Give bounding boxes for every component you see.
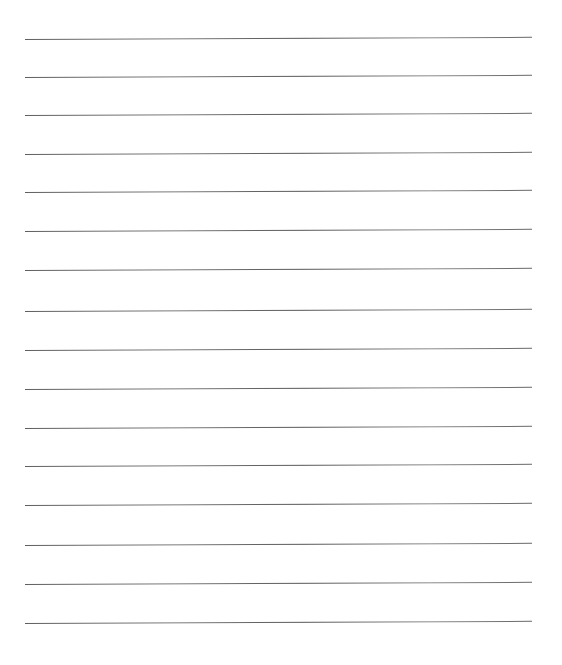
ruled-line [25,464,532,467]
ruled-line [25,543,532,546]
ruled-line [25,426,532,429]
ruled-line [25,348,532,351]
ruled-line [25,75,532,78]
ruled-line [25,37,532,40]
ruled-line [25,268,532,271]
ruled-line [25,229,532,232]
ruled-line [25,152,532,155]
ruled-line [25,387,532,390]
ruled-line [25,309,532,312]
ruled-line [25,190,532,193]
ruled-line [25,113,532,116]
lined-paper-sheet [0,0,562,665]
ruled-line [25,621,532,624]
ruled-line [25,503,532,506]
ruled-line [25,582,532,585]
